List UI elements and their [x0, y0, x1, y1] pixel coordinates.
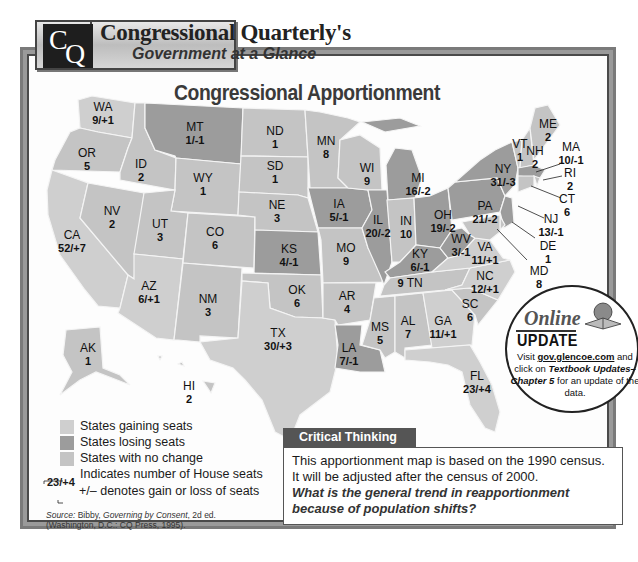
label-AR: AR4 — [339, 290, 356, 316]
label-DE: DE1 — [540, 240, 557, 266]
critical-thinking-heading: Critical Thinking — [283, 428, 416, 448]
label-AK: AK1 — [80, 342, 96, 368]
label-NV: NV2 — [104, 205, 121, 231]
update-label: UPDATE — [517, 331, 578, 351]
label-WA: WA9/+1 — [92, 101, 114, 127]
label-IL: IL20/-2 — [365, 214, 390, 240]
legend-swatch-gain — [60, 420, 74, 434]
legend-example-value: 23/+4 — [47, 476, 75, 488]
label-ND: ND1 — [266, 125, 283, 151]
label-MI: MI16/-2 — [405, 172, 430, 198]
label-WY: WY1 — [193, 172, 212, 198]
legend-swatch-lose — [60, 436, 74, 450]
label-UT: UT3 — [152, 218, 168, 244]
critical-thinking-box: This apportionment map is based on the 1… — [283, 447, 623, 525]
label-MN: MN8 — [317, 135, 336, 161]
label-KS: KS4/-1 — [280, 243, 299, 269]
label-WV: WV3/-1 — [451, 233, 470, 259]
label-ID: ID2 — [135, 158, 147, 184]
label-NM: NM3 — [199, 293, 218, 319]
label-NE: NE3 — [269, 199, 286, 225]
label-LA: LA7/-1 — [340, 342, 359, 368]
label-PA: PA21/-2 — [472, 200, 497, 226]
book-globe-icon — [583, 302, 623, 330]
label-TX: TX30/+3 — [264, 327, 292, 353]
label-VA: VA11/+1 — [471, 241, 498, 267]
label-SC: SC6 — [462, 298, 479, 324]
legend-swatch-none — [60, 452, 74, 466]
update-instructions: Visit gov.glencoe.com and click on Textb… — [510, 351, 638, 399]
label-MT: MT1/-1 — [186, 121, 205, 147]
label-MS: MS5 — [371, 321, 389, 347]
label-FL: FL23/+4 — [463, 370, 491, 396]
ct-question: What is the general trend in reapportion… — [292, 485, 614, 517]
label-GA: GA11/+1 — [429, 315, 456, 341]
label-NY: NY31/-3 — [490, 163, 515, 189]
ct-line-2: It will be adjusted after the census of … — [292, 469, 614, 485]
label-NH: NH2 — [526, 145, 543, 171]
online-label: Online — [524, 307, 581, 330]
label-MA: MA10/-1 — [558, 141, 583, 167]
label-WI: WI9 — [360, 162, 375, 188]
label-SD: SD1 — [267, 160, 284, 186]
label-CA: CA52/+7 — [58, 229, 86, 255]
label-KY: KY6/-1 — [411, 248, 430, 274]
label-CO: CO6 — [206, 226, 224, 252]
source-citation: Source: Bibby, Governing by Consent, 2d … — [46, 510, 216, 530]
label-AZ: AZ6/+1 — [138, 280, 160, 306]
label-HI: HI2 — [183, 380, 195, 406]
ct-line-1: This apportionment map is based on the 1… — [292, 453, 614, 469]
label-ME: ME2 — [539, 118, 557, 144]
label-MD: MD8 — [530, 265, 549, 291]
label-MO: MO9 — [336, 242, 355, 268]
label-NC: NC12/+1 — [471, 270, 499, 296]
label-NJ: NJ13/-1 — [538, 213, 563, 239]
state-RI — [534, 176, 540, 186]
label-RI: RI2 — [564, 167, 576, 193]
label-AL: AL7 — [401, 315, 416, 341]
label-IA: IA5/-1 — [330, 198, 349, 224]
label-OR: OR5 — [78, 147, 96, 173]
label-OK: OK6 — [288, 284, 305, 310]
label-TN: 9 TN — [397, 277, 422, 290]
state-CT — [518, 176, 534, 192]
glencoe-link[interactable]: gov.glencoe.com — [538, 351, 615, 362]
label-IN: IN10 — [400, 215, 412, 241]
